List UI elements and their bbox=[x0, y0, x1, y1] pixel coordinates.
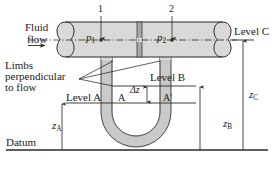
z-a-label: zA bbox=[52, 120, 62, 133]
tap-2-label: 2 bbox=[169, 4, 174, 15]
point-a-label: A bbox=[118, 93, 125, 104]
pipe-right-cut-end bbox=[222, 22, 231, 57]
figure-canvas: Fluid flow Limbs perpendicular to flow 1… bbox=[0, 0, 277, 170]
pressure-2-label: p2 bbox=[157, 32, 166, 45]
p2-subscript: 2 bbox=[163, 37, 167, 45]
pressure-point-1-dot bbox=[99, 38, 103, 42]
pipe-assembly bbox=[57, 22, 231, 57]
orifice-hole bbox=[137, 38, 142, 42]
pipe-left-cut-end bbox=[57, 22, 66, 57]
z-b-subscript: B bbox=[227, 123, 232, 131]
datum-label: Datum bbox=[6, 137, 36, 149]
delta-z-label: Δz bbox=[130, 85, 140, 96]
z-b-label: zB bbox=[223, 118, 232, 131]
level-c-label: Level C bbox=[234, 26, 269, 38]
z-a-subscript: A bbox=[56, 125, 61, 133]
point-a-prime-label: A' bbox=[163, 93, 172, 104]
pressure-1-label: p1 bbox=[86, 32, 95, 45]
z-c-label: zC bbox=[249, 89, 258, 102]
level-b-label: Level B bbox=[150, 72, 185, 84]
limbs-leader-right bbox=[79, 61, 160, 79]
limbs-callout-leaders bbox=[79, 61, 160, 86]
p1-subscript: 1 bbox=[92, 37, 96, 45]
level-a-label: Level A bbox=[66, 92, 101, 104]
tap-1-label: 1 bbox=[98, 4, 103, 15]
limbs-label-line3: to flow bbox=[5, 82, 36, 94]
pressure-point-2-dot bbox=[170, 38, 174, 42]
z-c-subscript: C bbox=[253, 94, 258, 102]
fluid-flow-label-line2: flow bbox=[27, 34, 47, 46]
